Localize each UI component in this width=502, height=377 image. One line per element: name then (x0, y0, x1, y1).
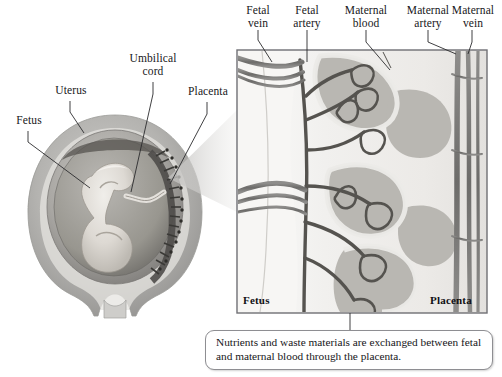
label-umbilical-cord: Umbilical cord (122, 52, 184, 77)
panel-tag-placenta: Placenta (430, 294, 472, 306)
label-maternal-vein: Maternal vein (446, 4, 500, 29)
label-uterus: Uterus (48, 84, 94, 97)
fetus-in-uterus-illustration (28, 115, 202, 318)
panel-tag-fetus: Fetus (243, 294, 270, 306)
label-maternal-blood: Maternal blood (335, 4, 397, 29)
placenta-cross-section-panel (237, 50, 487, 318)
placenta-figure (0, 0, 502, 377)
label-fetus: Fetus (8, 114, 50, 127)
label-placenta: Placenta (179, 85, 237, 98)
exchange-caption-text: Nutrients and waste materials are exchan… (216, 336, 484, 363)
label-fetal-vein: Fetal vein (234, 4, 282, 29)
label-fetal-artery: Fetal artery (281, 4, 333, 29)
